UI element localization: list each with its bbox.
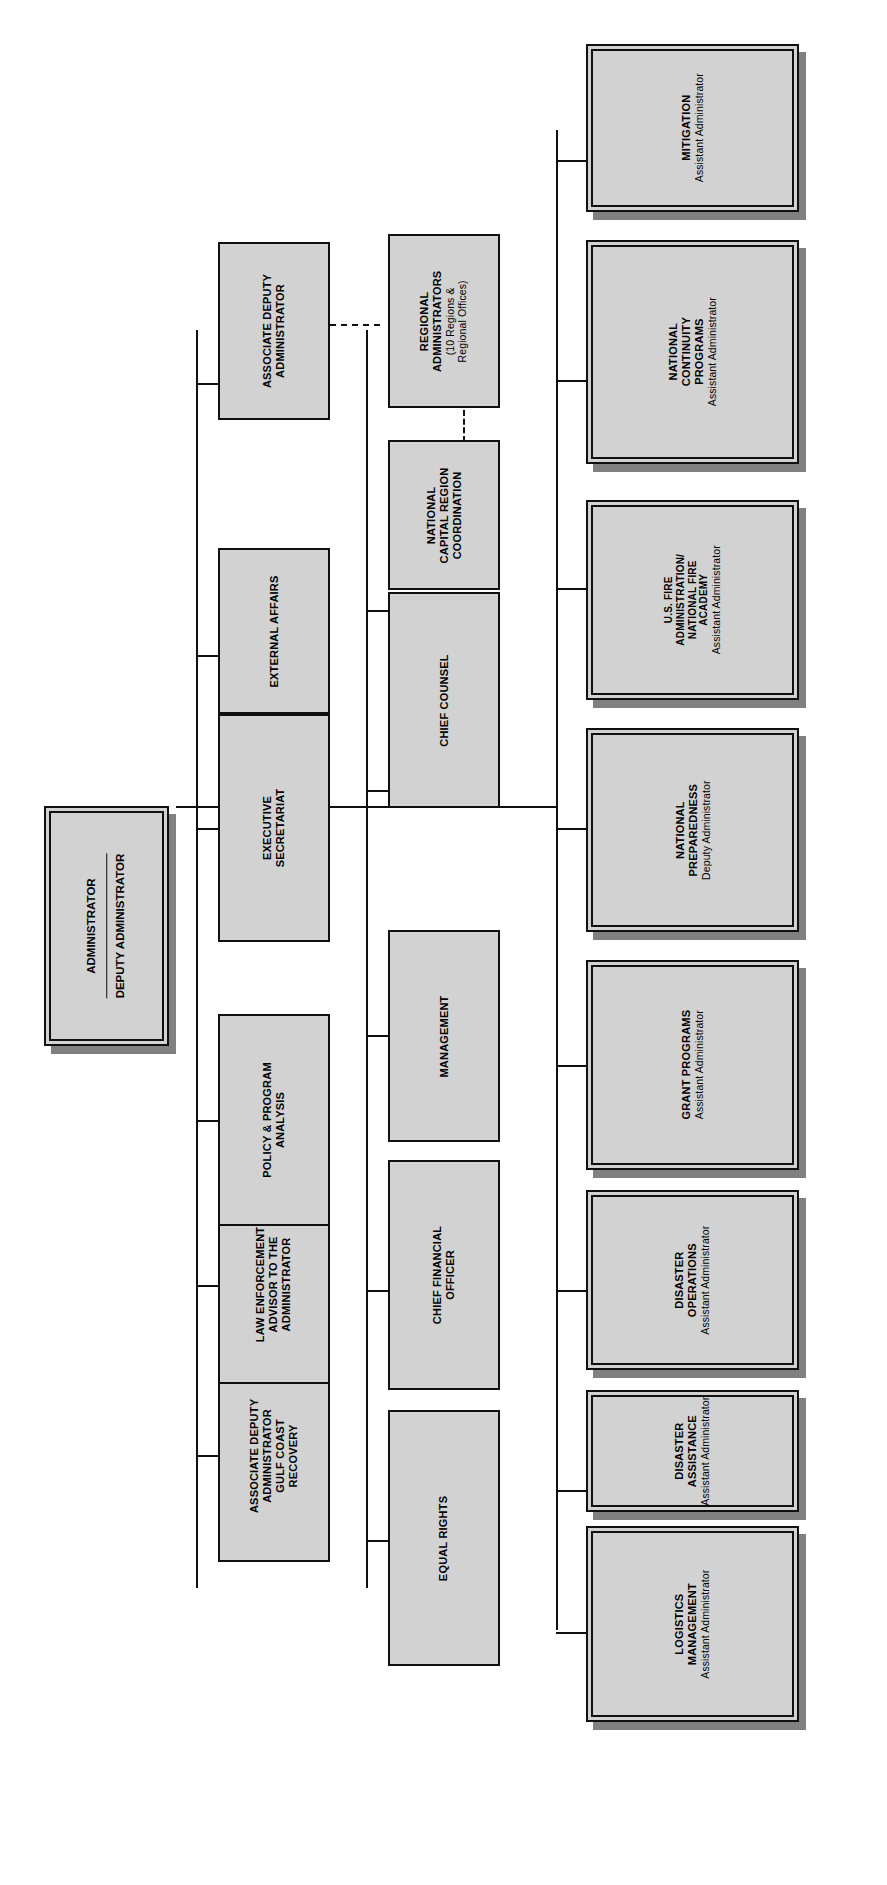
box-label: NATIONAL PREPAREDNESS <box>673 780 699 879</box>
box-label: U.S. FIRE ADMINISTRATION/ NATIONAL FIRE … <box>663 545 710 654</box>
connector-stub-upper-1 <box>196 1455 218 1457</box>
box-subtitle: Assistant Administrator <box>699 1225 711 1334</box>
connector-stub-lower-2 <box>366 1290 388 1292</box>
connector-stub-upper-6 <box>196 383 218 385</box>
connector-stub-prog-8 <box>556 160 586 162</box>
box-note: (10 Regions & Regional Offices) <box>445 270 470 371</box>
box-equal-rights[interactable]: EQUAL RIGHTS <box>388 1410 500 1666</box>
box-label: REGIONAL ADMINISTRATORS <box>419 270 445 371</box>
connector-spine-programs <box>556 130 558 1630</box>
connector-stub-prog-5 <box>556 828 586 830</box>
box-national-capital-region-coordination[interactable]: NATIONAL CAPITAL REGION COORDINATION <box>388 440 500 590</box>
box-mitigation[interactable]: MITIGATION Assistant Administrator <box>586 44 799 212</box>
box-label: CHIEF FINANCIAL OFFICER <box>431 1226 457 1324</box>
box-national-continuity-programs[interactable]: NATIONAL CONTINUITY PROGRAMS Assistant A… <box>586 240 799 464</box>
box-grant-programs[interactable]: GRANT PROGRAMS Assistant Administrator <box>586 960 799 1170</box>
mitigation-labels: MITIGATION Assistant Administrator <box>680 73 705 182</box>
head-divider <box>106 854 107 999</box>
box-label: ASSOCIATE DEPUTY ADMINISTRATOR <box>261 274 287 388</box>
connector-stub-prog-2 <box>556 1490 586 1492</box>
connector-stub-lower-3 <box>366 1035 388 1037</box>
box-label: NATIONAL CAPITAL REGION COORDINATION <box>425 467 464 563</box>
box-label: GRANT PROGRAMS <box>680 1010 693 1120</box>
connector-stub-prog-1 <box>556 1632 586 1634</box>
box-subtitle: Assistant Administrator <box>699 1396 711 1505</box>
box-subtitle: Assistant Administrator <box>693 73 705 182</box>
box-subtitle: Deputy Administrator <box>699 780 711 879</box>
connector-stub-lower-5 <box>366 610 388 612</box>
box-associate-deputy-administrator[interactable]: ASSOCIATE DEPUTY ADMINISTRATOR <box>218 242 330 420</box>
box-subtitle: Assistant Administrator <box>706 297 718 406</box>
box-subtitle: Assistant Administrator <box>699 1569 711 1678</box>
connector-stub-upper-5 <box>196 655 218 657</box>
disaster-assistance-labels: DISASTER ASSISTANCE Assistant Administra… <box>673 1396 711 1505</box>
box-policy-program-analysis[interactable]: POLICY & PROGRAM ANALYSIS <box>218 1014 330 1226</box>
national-preparedness-labels: NATIONAL PREPAREDNESS Deputy Administrat… <box>673 780 711 879</box>
box-administrator[interactable]: ADMINISTRATOR DEPUTY ADMINISTRATOR <box>44 806 169 1046</box>
box-label: DISASTER OPERATIONS <box>673 1225 699 1334</box>
connector-dashed-regional <box>330 324 380 326</box>
connector-stub-prog-3 <box>556 1290 586 1292</box>
box-chief-financial-officer[interactable]: CHIEF FINANCIAL OFFICER <box>388 1160 500 1390</box>
connector-stub-upper-4 <box>196 828 218 830</box>
connector-stub-lower-1 <box>366 1540 388 1542</box>
administrator-title: ADMINISTRATOR <box>85 854 99 999</box>
box-label: CHIEF COUNSEL <box>438 654 451 746</box>
box-label: MANAGEMENT <box>438 995 451 1077</box>
box-label: EXTERNAL AFFAIRS <box>268 575 281 687</box>
box-chief-counsel[interactable]: CHIEF COUNSEL <box>388 592 500 808</box>
box-subtitle: Assistant Administrator <box>693 1010 705 1120</box>
org-chart: ADMINISTRATOR DEPUTY ADMINISTRATOR ASSOC… <box>0 0 887 1885</box>
box-label: NATIONAL CONTINUITY PROGRAMS <box>667 297 706 406</box>
box-label: DISASTER ASSISTANCE <box>673 1396 699 1505</box>
logistics-labels: LOGISTICS MANAGEMENT Assistant Administr… <box>673 1569 711 1678</box>
connector-dashed-ncrc <box>463 410 465 442</box>
connector-stub-lower-4 <box>366 790 388 792</box>
deputy-administrator-title: DEPUTY ADMINISTRATOR <box>114 854 128 999</box>
box-disaster-operations[interactable]: DISASTER OPERATIONS Assistant Administra… <box>586 1190 799 1370</box>
box-label: EXECUTIVE SECRETARIAT <box>261 789 287 868</box>
box-label: LOGISTICS MANAGEMENT <box>673 1569 699 1678</box>
box-label: MITIGATION <box>680 73 693 182</box>
connector-stub-prog-7 <box>556 380 586 382</box>
disaster-operations-labels: DISASTER OPERATIONS Assistant Administra… <box>673 1225 711 1334</box>
national-continuity-labels: NATIONAL CONTINUITY PROGRAMS Assistant A… <box>667 297 718 406</box>
connector-spine-lower <box>366 330 368 1588</box>
box-regional-administrators[interactable]: REGIONAL ADMINISTRATORS (10 Regions & Re… <box>388 234 500 408</box>
box-label: LAW ENFORCEMENT ADVISOR TO THE ADMINISTR… <box>255 1226 294 1341</box>
administrator-labels: ADMINISTRATOR DEPUTY ADMINISTRATOR <box>85 854 127 999</box>
box-executive-secretariat[interactable]: EXECUTIVE SECRETARIAT <box>218 714 330 942</box>
box-national-preparedness[interactable]: NATIONAL PREPAREDNESS Deputy Administrat… <box>586 728 799 932</box>
connector-stub-prog-4 <box>556 1065 586 1067</box>
connector-stub-upper-3 <box>196 1120 218 1122</box>
connector-stub-prog-6 <box>556 588 586 590</box>
box-label: POLICY & PROGRAM ANALYSIS <box>261 1062 287 1177</box>
box-management[interactable]: MANAGEMENT <box>388 930 500 1142</box>
box-logistics-management[interactable]: LOGISTICS MANAGEMENT Assistant Administr… <box>586 1526 799 1722</box>
us-fire-administration-labels: U.S. FIRE ADMINISTRATION/ NATIONAL FIRE … <box>663 545 723 654</box>
box-label: EQUAL RIGHTS <box>438 1495 451 1580</box>
box-label: ASSOCIATE DEPUTY ADMINISTRATOR GULF COAS… <box>248 1399 300 1513</box>
regional-administrators-labels: REGIONAL ADMINISTRATORS (10 Regions & Re… <box>419 270 470 371</box>
box-us-fire-administration[interactable]: U.S. FIRE ADMINISTRATION/ NATIONAL FIRE … <box>586 500 799 700</box>
connector-spine-upper <box>196 330 198 1588</box>
box-external-affairs[interactable]: EXTERNAL AFFAIRS <box>218 548 330 714</box>
grant-programs-labels: GRANT PROGRAMS Assistant Administrator <box>680 1010 705 1120</box>
connector-stub-upper-2 <box>196 1285 218 1287</box>
box-disaster-assistance[interactable]: DISASTER ASSISTANCE Assistant Administra… <box>586 1390 799 1512</box>
box-subtitle: Assistant Administrator <box>710 545 722 654</box>
